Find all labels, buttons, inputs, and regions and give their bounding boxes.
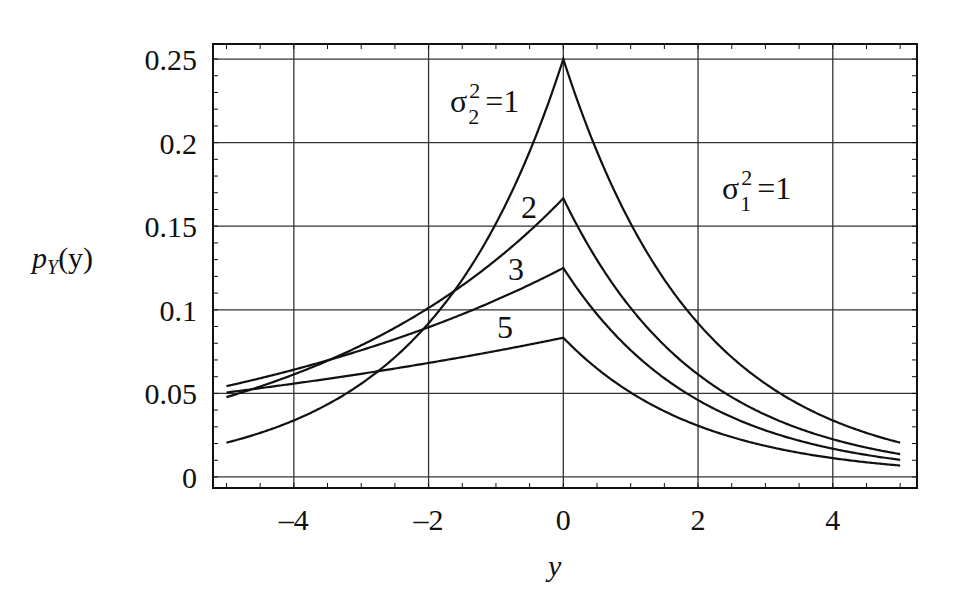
annotation-sigma2-eq-1: σ22=1 xyxy=(450,78,519,129)
plot-frame xyxy=(213,44,917,488)
y-tick-label: 0.05 xyxy=(145,377,198,410)
y-tick-label: 0.25 xyxy=(145,43,198,76)
y-axis-label: pY(y) xyxy=(30,241,93,278)
y-tick-labels: 00.050.10.150.20.25 xyxy=(145,43,198,494)
y-tick-label: 0 xyxy=(182,461,197,494)
x-tick-label: –4 xyxy=(278,503,309,536)
x-tick-labels: –4–2024 xyxy=(278,503,840,536)
annotation-sigma1-eq-1: σ21=1 xyxy=(722,165,791,216)
x-tick-label: –2 xyxy=(413,503,444,536)
x-axis-label: y xyxy=(545,549,562,582)
axis-ticks xyxy=(213,44,917,488)
plot-area: –4–2024 00.050.10.150.20.25 pY(y) y σ22=… xyxy=(0,0,963,607)
x-tick-label: 0 xyxy=(556,503,571,536)
annotation-curve-2: 2 xyxy=(521,189,537,225)
y-tick-label: 0.15 xyxy=(145,210,198,243)
y-tick-label: 0.1 xyxy=(160,294,198,327)
x-tick-label: 2 xyxy=(691,503,706,536)
annotation-curve-3: 3 xyxy=(508,251,524,287)
chart-figure: –4–2024 00.050.10.150.20.25 pY(y) y σ22=… xyxy=(0,0,963,607)
grid-lines xyxy=(213,44,917,488)
x-tick-label: 4 xyxy=(825,503,840,536)
y-tick-label: 0.2 xyxy=(160,127,198,160)
annotation-curve-5: 5 xyxy=(497,309,513,345)
